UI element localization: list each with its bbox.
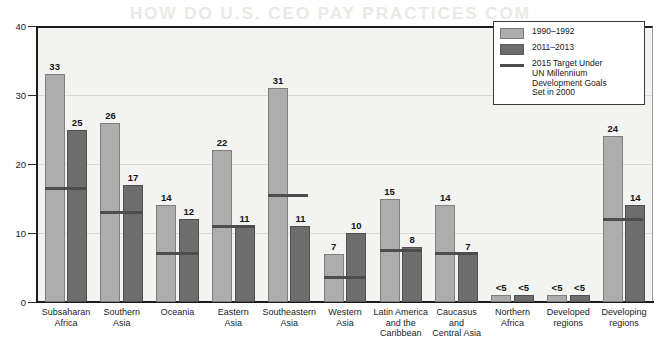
target-line [435,252,478,255]
target-line [324,276,367,279]
x-axis-label: Developing regions [590,307,658,328]
y-axis-tick-label: 20 [0,159,26,170]
bar-value-label: 11 [282,213,318,224]
target-line [156,252,199,255]
bar-value-label: 15 [372,186,408,197]
bar-value-label: 26 [92,110,128,121]
chart-legend: 1990–19922011–20132015 Target Under UN M… [493,21,645,105]
bar-value-label: 14 [427,192,463,203]
bar-value-label: 10 [338,220,374,231]
bar [123,185,143,302]
legend-label: 2015 Target Under UN Millennium Developm… [532,59,638,98]
bar [235,226,255,302]
bar [67,130,87,303]
y-axis-tick [28,302,36,303]
bar [402,247,422,302]
bar [179,219,199,302]
bar [458,254,478,302]
bar-value-label: 8 [394,234,430,245]
legend-color-swatch [500,44,524,55]
legend-label: 2011–2013 [532,43,574,53]
chart-container: HOW DO U.S. CEO PAY PRACTICES COM AFFECT… [0,0,661,354]
y-axis-tick [28,95,36,96]
y-axis-tick [28,26,36,27]
bar-value-label: 7 [450,241,486,252]
bar-value-label: 12 [171,206,207,217]
legend-label: 1990–1992 [532,27,575,37]
target-line [212,225,255,228]
target-line [603,218,643,221]
bar [514,295,534,302]
bar-value-label: 22 [204,137,240,148]
target-line [100,211,143,214]
target-line [380,249,423,252]
bar-value-label: 33 [37,61,73,72]
y-axis-tick-label: 30 [0,90,26,101]
gridline [38,164,652,165]
bar-value-label: <5 [506,282,542,293]
y-axis-tick-label: 10 [0,228,26,239]
bar [570,295,590,302]
bar-value-label: 25 [59,117,95,128]
legend-color-swatch [500,28,524,39]
bar [290,226,310,302]
y-axis-tick-label: 40 [0,21,26,32]
bar-value-label: 14 [148,192,184,203]
bar-value-label: 31 [260,75,296,86]
bar-value-label: 11 [227,213,263,224]
bar [346,233,366,302]
bar-value-label: 24 [595,123,631,134]
y-axis-tick [28,164,36,165]
target-line [45,187,88,190]
bar [547,295,567,302]
legend-item: 2015 Target Under UN Millennium Developm… [500,59,638,98]
bar-value-label: <5 [562,282,598,293]
legend-item: 2011–2013 [500,43,638,55]
y-axis-tick-label: 0 [0,297,26,308]
bar-value-label: 14 [617,192,653,203]
y-axis-tick [28,233,36,234]
bar [491,295,511,302]
legend-item: 1990–1992 [500,27,638,39]
bar-value-label: 17 [115,172,151,183]
legend-line-swatch [500,64,524,67]
target-line [268,194,308,197]
